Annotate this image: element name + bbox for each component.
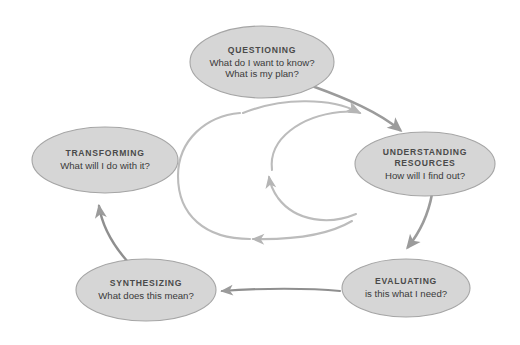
feedback-loops [178,101,360,239]
outer-feedback-loop-arc-bottom [253,221,352,239]
node-questioning[interactable]: QUESTIONING What do I want to know? What… [190,26,334,98]
node-understanding-resources-title-line-1: UNDERSTANDING [383,147,468,158]
inner-feedback-loop-arc-bottom [269,177,356,220]
node-synthesizing-title: SYNTHESIZING [110,278,183,289]
node-understanding-resources-line-1: How will I find out? [385,170,465,182]
arrow-understanding-to-evaluating [408,194,432,247]
node-evaluating[interactable]: EVALUATING is this what I need? [342,259,470,317]
node-synthesizing[interactable]: SYNTHESIZING What does this mean? [76,259,216,321]
arrow-evaluating-to-synthesizing [222,289,340,291]
node-transforming-title: TRANSFORMING [65,148,144,159]
node-transforming[interactable]: TRANSFORMING What will I do with it? [32,127,178,193]
node-questioning-title: QUESTIONING [228,45,296,56]
node-questioning-line-1: What do I want to know? [209,57,314,69]
cycle-diagram: QUESTIONING What do I want to know? What… [0,0,520,345]
node-evaluating-line-1: is this what I need? [365,288,447,300]
outer-feedback-loop-arc-left [178,113,250,239]
node-understanding-resources-title-line-2: RESOURCES [394,158,455,169]
node-transforming-line-1: What will I do with it? [60,160,150,172]
node-evaluating-title: EVALUATING [375,276,437,287]
node-understanding-resources[interactable]: UNDERSTANDING RESOURCES How will I find … [355,132,495,196]
arrow-synthesizing-to-transforming [99,206,128,262]
inner-feedback-loop-arc-top [272,111,360,170]
node-synthesizing-line-1: What does this mean? [98,290,193,302]
node-questioning-line-2: What is my plan? [225,68,299,80]
